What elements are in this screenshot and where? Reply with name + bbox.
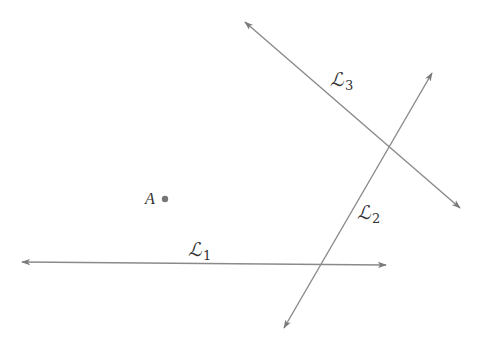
lines-svg xyxy=(0,0,490,350)
line-l1-subscript: 1 xyxy=(203,248,211,263)
diagram-canvas: A ℒ1 ℒ2 ℒ3 xyxy=(0,0,490,350)
line-l2-label: ℒ2 xyxy=(357,203,380,225)
line-l3-subscript: 3 xyxy=(345,78,353,93)
line-l3-name: ℒ xyxy=(330,68,344,90)
line-l1-name: ℒ xyxy=(188,238,202,260)
line-l2-subscript: 2 xyxy=(372,211,380,226)
line-l3 xyxy=(245,22,460,208)
line-l1-label: ℒ1 xyxy=(188,240,211,262)
line-l3-label: ℒ3 xyxy=(330,70,353,92)
point-a-label-text: A xyxy=(145,190,155,207)
point-a-label: A xyxy=(145,191,155,207)
point-a-dot xyxy=(162,196,168,202)
line-l2-name: ℒ xyxy=(357,201,371,223)
